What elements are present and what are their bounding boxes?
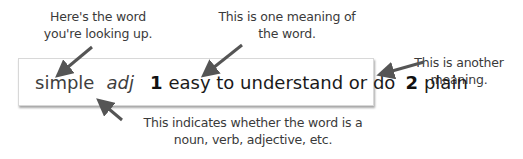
- annotation-meaning-one: This is one meaning of the word.: [212, 8, 362, 42]
- annotation-headword: Here's the word you're looking up.: [38, 8, 158, 42]
- sense-number-1: 1: [150, 72, 163, 93]
- arrow-to-part-of-speech-icon: [103, 104, 122, 120]
- annotation-part-of-speech: This indicates whether the word is a nou…: [128, 114, 378, 148]
- headword: simple: [35, 72, 94, 93]
- part-of-speech: adj: [106, 72, 133, 93]
- sense-text-2: plain: [424, 72, 468, 93]
- dictionary-entry-box: simple adj 1 easy to understand or do 2 …: [18, 58, 374, 106]
- sense-text-1: easy to understand or do: [168, 72, 395, 93]
- sense-number-2: 2: [405, 72, 418, 93]
